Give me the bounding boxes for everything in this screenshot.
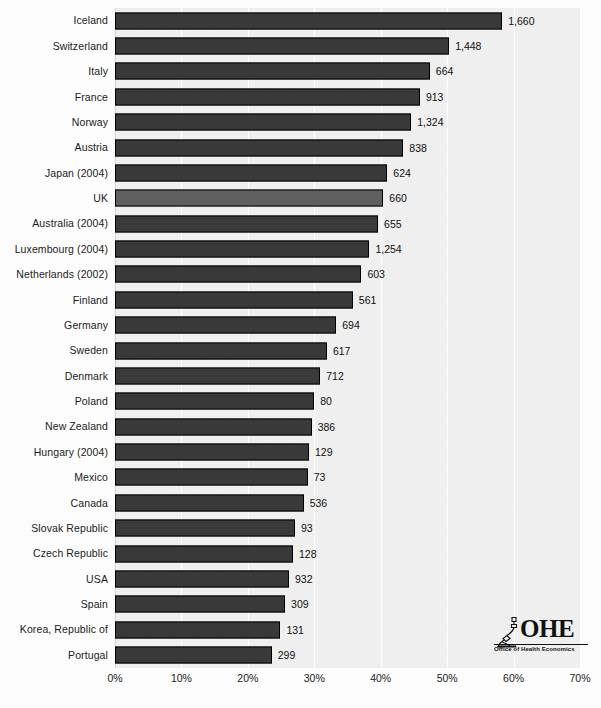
value-label: 932 [295, 574, 313, 585]
value-label: 299 [278, 650, 296, 661]
x-tick-label: 70% [569, 672, 590, 684]
bar-row: Austria838 [0, 135, 601, 160]
category-label: New Zealand [0, 421, 108, 432]
bar [115, 570, 289, 587]
value-label: 129 [315, 447, 333, 458]
value-label: 694 [342, 320, 360, 331]
value-label: 664 [436, 66, 454, 77]
value-label: 386 [318, 421, 336, 432]
bar-chart: Iceland1,660Switzerland1,448Italy664Fran… [0, 0, 601, 708]
category-label: Japan (2004) [0, 168, 108, 179]
category-label: Germany [0, 320, 108, 331]
ohe-rule [494, 644, 588, 645]
x-tick-label: 30% [304, 672, 325, 684]
x-axis: 0%10%20%30%40%50%60%70% [0, 672, 601, 694]
bar-row: Australia (2004)655 [0, 211, 601, 236]
bar-row: Germany694 [0, 313, 601, 338]
category-label: USA [0, 574, 108, 585]
value-label: 1,254 [375, 244, 401, 255]
category-label: Mexico [0, 472, 108, 483]
bar-row: Hungary (2004)129 [0, 439, 601, 464]
bar-row: Luxembourg (2004)1,254 [0, 236, 601, 261]
x-tick-label: 0% [107, 672, 122, 684]
bar [115, 317, 336, 334]
bar-row: New Zealand386 [0, 414, 601, 439]
bar-row: Sweden617 [0, 338, 601, 363]
bar-row: Norway1,324 [0, 110, 601, 135]
value-label: 712 [326, 371, 344, 382]
bar [115, 621, 280, 638]
x-tick-label: 10% [171, 672, 192, 684]
value-label: 1,324 [417, 117, 443, 128]
bar [115, 190, 383, 207]
bar [115, 520, 295, 537]
category-label: Iceland [0, 15, 108, 26]
category-label: France [0, 92, 108, 103]
bar-row: USA932 [0, 566, 601, 591]
bar [115, 12, 502, 29]
bar-row: France913 [0, 84, 601, 109]
category-label: Finland [0, 295, 108, 306]
bar [115, 367, 320, 384]
value-label: 660 [389, 193, 407, 204]
ohe-logo: OHE Office of Health Economics [492, 614, 592, 662]
bar [115, 139, 403, 156]
value-label: 913 [426, 92, 444, 103]
category-label: Denmark [0, 371, 108, 382]
value-label: 128 [299, 548, 317, 559]
value-label: 838 [409, 142, 427, 153]
bar-row: Mexico73 [0, 465, 601, 490]
value-label: 536 [310, 498, 328, 509]
value-label: 624 [393, 168, 411, 179]
category-label: Australia (2004) [0, 218, 108, 229]
bar [115, 164, 387, 181]
value-label: 80 [320, 396, 332, 407]
bar [115, 418, 312, 435]
category-label: Poland [0, 396, 108, 407]
value-label: 309 [291, 599, 309, 610]
ohe-tagline: Office of Health Economics [494, 646, 575, 652]
category-label: Portugal [0, 650, 108, 661]
bar-row: UK660 [0, 186, 601, 211]
category-label: Norway [0, 117, 108, 128]
category-label: Italy [0, 66, 108, 77]
value-label: 561 [359, 295, 377, 306]
bar-row: Canada536 [0, 490, 601, 515]
bar-row: Iceland1,660 [0, 8, 601, 33]
x-tick-label: 60% [503, 672, 524, 684]
x-tick-label: 20% [237, 672, 258, 684]
bar [115, 596, 285, 613]
bar [115, 545, 293, 562]
bar [115, 114, 411, 131]
x-tick-label: 40% [370, 672, 391, 684]
category-label: Canada [0, 498, 108, 509]
bar [115, 88, 420, 105]
category-label: Switzerland [0, 41, 108, 52]
category-label: Spain [0, 599, 108, 610]
value-label: 93 [301, 523, 313, 534]
category-label: UK [0, 193, 108, 204]
value-label: 73 [314, 472, 326, 483]
value-label: 655 [384, 218, 402, 229]
bar [115, 241, 369, 258]
bar-row: Italy664 [0, 59, 601, 84]
category-label: Sweden [0, 345, 108, 356]
bar-rows: Iceland1,660Switzerland1,448Italy664Fran… [0, 8, 601, 668]
bar [115, 647, 272, 664]
category-label: Luxembourg (2004) [0, 244, 108, 255]
bar [115, 215, 378, 232]
category-label: Slovak Republic [0, 523, 108, 534]
value-label: 1,448 [455, 41, 481, 52]
bar-row: Finland561 [0, 287, 601, 312]
category-label: Hungary (2004) [0, 447, 108, 458]
bar [115, 291, 353, 308]
bar [115, 393, 314, 410]
bar [115, 469, 308, 486]
value-label: 1,660 [508, 15, 534, 26]
bar-row: Denmark712 [0, 363, 601, 388]
bar [115, 63, 430, 80]
bar-row: Netherlands (2002)603 [0, 262, 601, 287]
bar-row: Czech Republic128 [0, 541, 601, 566]
category-label: Netherlands (2002) [0, 269, 108, 280]
bar-row: Switzerland1,448 [0, 33, 601, 58]
